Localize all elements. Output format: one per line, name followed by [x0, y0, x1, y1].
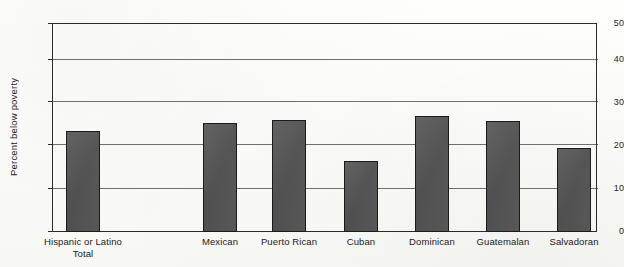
bar-dominican — [415, 116, 449, 232]
bar-salvadoran — [557, 148, 591, 232]
bar-chart: Percent below poverty 50 40 30 20 10 0 H… — [0, 0, 624, 267]
y-tick-label-10: 10 — [604, 184, 624, 193]
y-tick-label-0: 0 — [604, 227, 624, 236]
y-tick-label-20: 20 — [604, 141, 624, 150]
y-tick-label-50: 50 — [604, 19, 624, 28]
bar-cuban — [344, 161, 378, 232]
bar-hispanic-or-latino-total — [66, 131, 100, 232]
x-label-salvadoran: Salvadoran — [528, 236, 620, 248]
y-tick-label-30: 30 — [604, 98, 624, 107]
bar-puerto-rican — [272, 120, 306, 232]
bar-guatemalan — [486, 121, 520, 232]
bar-mexican — [203, 123, 237, 232]
y-tick-label-40: 40 — [604, 55, 624, 64]
chart-screenshot: Percent below poverty 50 40 30 20 10 0 H… — [0, 0, 624, 267]
y-axis-title: Percent below poverty — [8, 62, 22, 192]
x-label-hispanic-or-latino-total: Hispanic or Latino Total — [33, 236, 133, 259]
